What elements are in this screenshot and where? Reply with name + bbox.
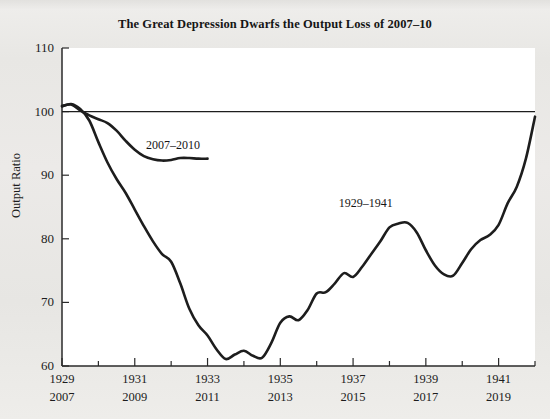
x-tick-label-group: 19392017 [413,370,438,406]
x-tick-label-group: 19312009 [122,370,147,406]
series-layer [62,48,535,366]
x-tick-label-group: 19332011 [195,370,220,406]
x-axis-tick-labels: 1929200719312009193320111935201319372015… [62,370,535,414]
x-tick-label-group: 19352013 [268,370,293,406]
x-tick-label-primary: 1939 [413,372,438,386]
x-tick-label-primary: 1929 [50,372,75,386]
x-tick-label-primary: 1933 [195,372,220,386]
x-tick-label-group: 19292007 [50,370,75,406]
x-tick-label-secondary: 2007 [50,388,75,406]
chart-title: The Great Depression Dwarfs the Output L… [0,17,550,32]
x-tick-label-secondary: 2015 [341,388,366,406]
x-tick-label-group: 19412019 [486,370,511,406]
x-tick-label-secondary: 2019 [486,388,511,406]
x-tick-label-secondary: 2011 [195,388,220,406]
x-tick-label-group: 19372015 [341,370,366,406]
x-tick-label-primary: 1935 [268,372,293,386]
series-annotation: 1929–1941 [339,196,393,211]
x-tick-label-secondary: 2009 [122,388,147,406]
y-tick-label: 110 [8,41,54,54]
series-line-1929-1941 [62,104,535,359]
x-tick-label-primary: 1931 [122,372,147,386]
x-tick-label-primary: 1937 [341,372,366,386]
y-tick-label: 60 [8,359,54,372]
y-tick-label: 70 [8,295,54,308]
x-tick-label-primary: 1941 [486,372,511,386]
x-tick-label-secondary: 2013 [268,388,293,406]
y-tick-label: 100 [8,105,54,118]
x-tick-label-secondary: 2017 [413,388,438,406]
y-axis-title: Output Ratio [9,126,24,246]
series-annotation: 2007–2010 [146,138,200,153]
plot-area: 2007–20101929–1941 [62,48,535,366]
